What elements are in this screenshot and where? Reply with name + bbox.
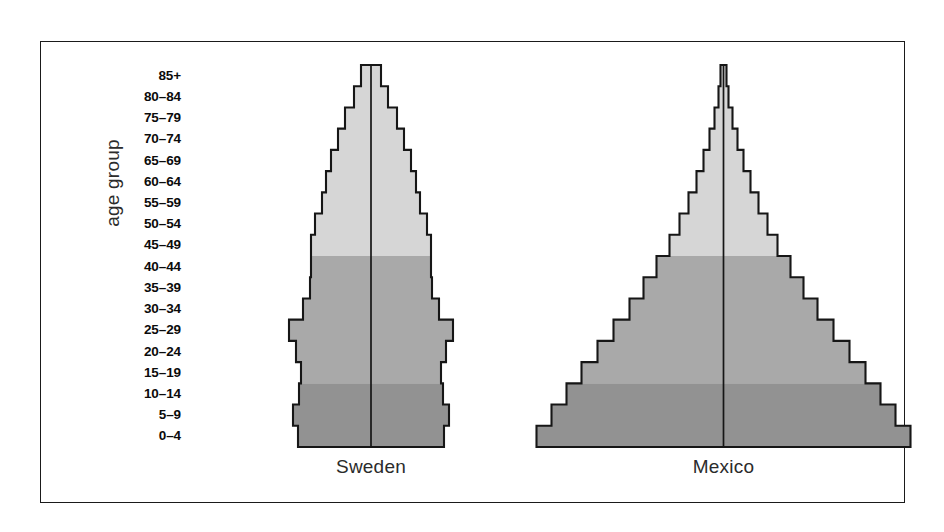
age-tick-5-9: 5–9 — [96, 408, 181, 422]
age-tick-60-64: 60–64 — [96, 175, 181, 189]
age-tick-65-69: 65–69 — [96, 154, 181, 168]
age-group-tick-labels: 85+80–8475–7970–7465–6960–6455–5950–5445… — [96, 65, 181, 447]
age-tick-50-54: 50–54 — [96, 217, 181, 231]
pyramid-svg-mexico — [551, 65, 896, 447]
chart-frame: age group 85+80–8475–7970–7465–6960–6455… — [40, 41, 905, 503]
age-tick-75-79: 75–79 — [96, 111, 181, 125]
age-tick-25-29: 25–29 — [96, 323, 181, 337]
age-tick-85+: 85+ — [96, 69, 181, 83]
pyramid-svg-sweden — [191, 65, 551, 447]
age-tick-10-14: 10–14 — [96, 387, 181, 401]
population-pyramid-sweden — [191, 65, 551, 447]
age-tick-20-24: 20–24 — [96, 345, 181, 359]
age-tick-0-4: 0–4 — [96, 429, 181, 443]
country-caption-sweden: Sweden — [191, 456, 551, 478]
age-tick-35-39: 35–39 — [96, 281, 181, 295]
population-pyramid-mexico — [551, 65, 896, 447]
age-tick-70-74: 70–74 — [96, 132, 181, 146]
age-tick-30-34: 30–34 — [96, 302, 181, 316]
age-tick-80-84: 80–84 — [96, 90, 181, 104]
country-caption-mexico: Mexico — [551, 456, 896, 478]
age-tick-15-19: 15–19 — [96, 366, 181, 380]
age-tick-45-49: 45–49 — [96, 238, 181, 252]
age-tick-40-44: 40–44 — [96, 260, 181, 274]
age-tick-55-59: 55–59 — [96, 196, 181, 210]
